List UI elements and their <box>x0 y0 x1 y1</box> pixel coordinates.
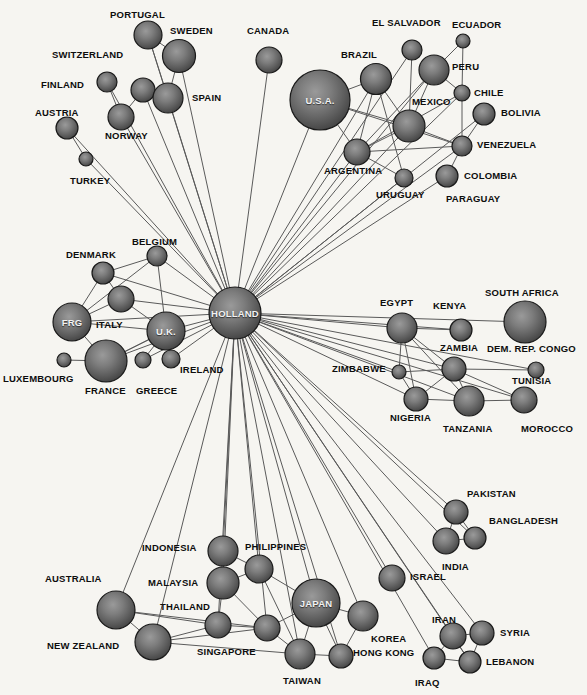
node-label: PERU <box>452 62 479 72</box>
network-node[interactable] <box>134 21 162 49</box>
network-node[interactable] <box>207 567 239 599</box>
network-node[interactable] <box>245 555 273 583</box>
network-node[interactable] <box>433 528 459 554</box>
network-node[interactable] <box>459 651 481 673</box>
network-node[interactable] <box>511 387 537 413</box>
network-node[interactable] <box>108 286 134 312</box>
network-edge <box>129 99 136 108</box>
node-label-inner: U.S.A. <box>305 95 334 106</box>
node-label: TANZANIA <box>443 424 492 434</box>
node-label: LEBANON <box>486 657 534 667</box>
network-edge <box>152 48 164 85</box>
network-edge <box>445 79 456 88</box>
network-node[interactable] <box>464 527 486 549</box>
network-node[interactable] <box>454 85 470 101</box>
network-edge <box>237 574 246 578</box>
node-label: SPAIN <box>192 93 221 103</box>
network-node[interactable] <box>256 47 282 73</box>
network-node[interactable] <box>79 152 93 166</box>
node-label: DENMARK <box>66 250 116 260</box>
network-node[interactable] <box>131 78 155 102</box>
network-node[interactable] <box>470 621 494 645</box>
network-node[interactable] <box>254 615 280 641</box>
network-node[interactable] <box>361 64 392 95</box>
network-node[interactable] <box>473 103 495 125</box>
network-node[interactable] <box>208 536 238 566</box>
network-node[interactable] <box>135 352 151 368</box>
node-label: PHILIPPINES <box>245 542 306 552</box>
node-label: IRAQ <box>415 678 440 688</box>
node-label: PARAGUAY <box>446 194 500 204</box>
network-node[interactable] <box>135 624 171 660</box>
network-edge <box>474 644 478 653</box>
network-node[interactable] <box>348 601 378 631</box>
node-label: BOLIVIA <box>501 108 541 118</box>
network-edge <box>234 594 259 619</box>
network-node[interactable] <box>404 387 428 411</box>
node-label: NEW ZEALAND <box>47 641 119 651</box>
network-node[interactable] <box>285 639 315 669</box>
node-label: SWITZERLAND <box>52 50 123 60</box>
network-node[interactable] <box>56 117 78 139</box>
network-edge <box>444 659 459 661</box>
network-node[interactable] <box>436 165 458 187</box>
network-node[interactable] <box>387 313 417 343</box>
network-node[interactable] <box>504 301 546 343</box>
network-edge <box>465 369 528 370</box>
network-node[interactable] <box>153 83 183 113</box>
network-node[interactable] <box>454 386 484 416</box>
network-node[interactable] <box>423 647 445 669</box>
network-node[interactable] <box>452 136 472 156</box>
network-node[interactable] <box>97 591 135 629</box>
network-node[interactable] <box>97 72 117 92</box>
network-node[interactable] <box>450 319 472 341</box>
node-label: BANGLADESH <box>489 516 558 526</box>
network-node[interactable] <box>329 644 353 668</box>
node-label: IRELAND <box>180 365 224 375</box>
node-label: VENEZUELA <box>477 140 536 150</box>
network-edge <box>427 399 454 400</box>
node-label-inner: FRG <box>62 317 83 328</box>
network-node[interactable] <box>147 246 167 266</box>
network-diagram: PORTUGALSWEDENCANADAEL SALVADORECUADORSW… <box>0 0 587 695</box>
network-edge <box>183 319 211 326</box>
network-node[interactable] <box>402 40 422 60</box>
node-label: URUGUAY <box>376 190 425 200</box>
network-node[interactable] <box>444 500 468 524</box>
network-node[interactable] <box>440 623 466 649</box>
network-node[interactable] <box>344 139 370 165</box>
node-label: NIGERIA <box>390 413 431 423</box>
network-edge <box>158 265 164 313</box>
network-node[interactable] <box>85 340 127 382</box>
node-label: SYRIA <box>500 628 530 638</box>
network-node[interactable] <box>456 34 470 48</box>
node-label: DEM. REP. CONGO <box>487 344 576 354</box>
node-label: PAKISTAN <box>467 489 516 499</box>
node-label: INDIA <box>442 562 469 572</box>
network-node[interactable] <box>162 350 180 368</box>
network-edge <box>253 98 457 296</box>
network-edge <box>84 336 93 346</box>
network-edge <box>124 339 150 352</box>
node-label: ISRAEL <box>410 572 446 582</box>
node-label: SINGAPORE <box>197 647 256 657</box>
network-node[interactable] <box>393 110 425 142</box>
network-edge <box>254 183 397 297</box>
network-node[interactable] <box>395 169 413 187</box>
network-node[interactable] <box>442 357 466 381</box>
network-edge <box>463 521 469 529</box>
network-node[interactable] <box>205 612 231 638</box>
network-node[interactable] <box>163 40 196 73</box>
network-node[interactable] <box>379 565 405 591</box>
network-node[interactable] <box>419 55 449 85</box>
node-label: INDONESIA <box>142 543 197 553</box>
network-node[interactable] <box>57 353 71 367</box>
node-label: BELGIUM <box>132 237 177 247</box>
node-label-inner: JAPAN <box>300 598 333 609</box>
network-node[interactable] <box>108 104 134 130</box>
network-node[interactable] <box>392 365 406 379</box>
network-edge <box>423 131 453 142</box>
node-label: HONG KONG <box>353 648 414 658</box>
network-edge <box>452 155 458 167</box>
network-node[interactable] <box>92 262 114 284</box>
